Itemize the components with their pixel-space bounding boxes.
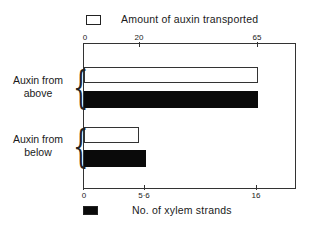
brace-icon-above: { (73, 66, 88, 110)
top-tick-label-0: 0 (83, 33, 87, 42)
bar-below-xylem-strands (84, 150, 146, 167)
legend-label-xylem-strands: No. of xylem strands (132, 204, 232, 216)
category-label-below-line2: below (3, 146, 73, 159)
category-label-above-line1: Auxin from (3, 74, 73, 87)
legend-swatch-xylem-strands (83, 206, 98, 215)
legend-swatch-auxin-transported (86, 15, 101, 25)
category-label-above-line2: above (3, 87, 73, 100)
category-label-below-line1: Auxin from (3, 133, 73, 146)
bar-above-xylem-strands (84, 91, 258, 108)
bottom-tick-5-6 (144, 185, 145, 190)
legend-label-auxin-transported: Amount of auxin transported (121, 13, 258, 25)
top-tick-label-65: 65 (253, 33, 262, 42)
category-label-below: Auxin from below (3, 133, 73, 159)
bottom-tick-label-5-6: 5·6 (138, 191, 150, 200)
bar-above-auxin-transported (84, 67, 258, 83)
brace-icon-below: { (73, 125, 88, 169)
bar-below-auxin-transported (84, 127, 139, 143)
bottom-tick-16 (256, 185, 257, 190)
bottom-tick-label-0: 0 (82, 191, 86, 200)
bottom-tick-label-16: 16 (252, 191, 261, 200)
top-tick-label-20: 20 (135, 33, 144, 42)
plot-frame (84, 43, 296, 189)
category-label-above: Auxin from above (3, 74, 73, 100)
